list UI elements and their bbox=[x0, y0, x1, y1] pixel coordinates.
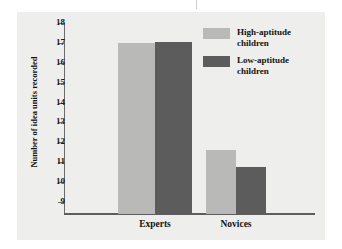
y-tick-label: 12 bbox=[31, 137, 65, 146]
bar-experts-low-aptitude bbox=[155, 42, 192, 214]
y-tick-label: 17 bbox=[31, 38, 65, 47]
y-axis-title: Number of idea units recorded bbox=[29, 32, 39, 192]
plot-area: Number of idea units recorded 1817161514… bbox=[17, 12, 325, 240]
legend-swatch-icon bbox=[203, 28, 230, 39]
y-tick-label: 11 bbox=[31, 157, 65, 166]
y-tick-label: 9 bbox=[31, 197, 65, 206]
legend-item-low-aptitude: Low-aptitude children bbox=[203, 55, 323, 76]
figure-root: Number of idea units recorded 1817161514… bbox=[0, 0, 342, 249]
legend-label: Low-aptitude children bbox=[237, 55, 289, 76]
y-tick-label: 10 bbox=[31, 177, 65, 186]
legend-label: High-aptitude children bbox=[237, 27, 291, 48]
legend-item-high-aptitude: High-aptitude children bbox=[203, 27, 323, 48]
x-axis-label-novices: Novices bbox=[186, 219, 286, 229]
y-tick-label: 13 bbox=[31, 117, 65, 126]
bar-experts-high-aptitude bbox=[118, 43, 155, 214]
y-tick-label: 15 bbox=[31, 78, 65, 87]
y-tick-label: 16 bbox=[31, 58, 65, 67]
bar-novices-low-aptitude bbox=[236, 167, 266, 214]
bar-novices-high-aptitude bbox=[206, 150, 236, 214]
y-tick-label: 18 bbox=[31, 18, 65, 27]
legend-swatch-icon bbox=[203, 56, 230, 67]
chart-panel: Number of idea units recorded 1817161514… bbox=[17, 12, 325, 240]
y-tick-label: 14 bbox=[31, 98, 65, 107]
scan-artifact-line bbox=[196, 0, 197, 9]
legend: High-aptitude childrenLow-aptitude child… bbox=[203, 27, 323, 83]
